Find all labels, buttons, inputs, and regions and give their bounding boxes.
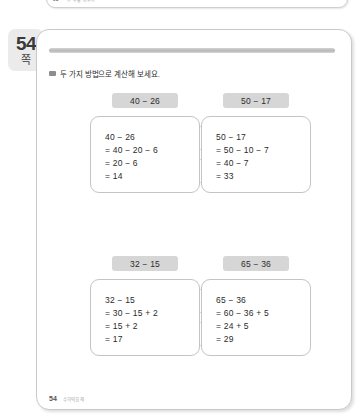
answer-line: = 40 − 7	[216, 157, 310, 170]
answer-line: = 24 + 5	[216, 320, 310, 333]
problem-chip-1: 40 − 26	[112, 93, 178, 108]
problem-group-3: 32 − 15 32 − 15 = 30 − 15 + 2 = 15 + 2 =…	[90, 256, 200, 356]
square-bullet-icon	[49, 71, 56, 76]
answer-box-2[interactable]: 50 − 17 = 50 − 10 − 7 = 40 − 7 = 33	[201, 116, 311, 193]
answer-line: = 15 + 2	[105, 320, 199, 333]
answer-box-1[interactable]: 40 − 26 = 40 − 20 − 6 = 20 − 6 = 14	[90, 116, 200, 193]
problem-chip-4: 65 − 36	[223, 256, 289, 271]
previous-page-caption: 두 수를 바꾸어	[67, 0, 96, 3]
problem-chip-3: 32 − 15	[112, 256, 178, 271]
answer-line: = 29	[216, 333, 310, 346]
answer-line: = 40 − 20 − 6	[105, 144, 199, 157]
page-number-unit: 쪽	[21, 55, 31, 66]
previous-page-number: 53	[53, 0, 59, 2]
problem-chip-2: 50 − 17	[223, 93, 289, 108]
answer-box-4[interactable]: 65 − 36 = 60 − 36 + 5 = 24 + 5 = 29	[201, 279, 311, 356]
footer-page-number: 54	[49, 395, 57, 402]
problem-group-2: 50 − 17 50 − 17 = 50 − 10 − 7 = 40 − 7 =…	[201, 93, 311, 193]
problem-group-4: 65 − 36 65 − 36 = 60 − 36 + 5 = 24 + 5 =…	[201, 256, 311, 356]
answer-box-3[interactable]: 32 − 15 = 30 − 15 + 2 = 15 + 2 = 17	[90, 279, 200, 356]
previous-page-card-peek[interactable]: 53 두 수를 바꾸어	[46, 0, 348, 8]
instruction-text: 두 가지 방법으로 계산해 보세요.	[60, 68, 160, 79]
answer-line: 50 − 17	[216, 131, 310, 144]
answer-line: = 30 − 15 + 2	[105, 307, 199, 320]
header-divider-bar	[49, 48, 335, 53]
answer-line: = 17	[105, 333, 199, 346]
answer-line: 40 − 26	[105, 131, 199, 144]
answer-line: = 14	[105, 170, 199, 183]
answer-line: = 60 − 36 + 5	[216, 307, 310, 320]
page-number-value: 54	[16, 34, 36, 53]
answer-line: = 33	[216, 170, 310, 183]
page-footer: 54 수학익힘책	[49, 395, 84, 402]
problem-group-1: 40 − 26 40 − 26 = 40 − 20 − 6 = 20 − 6 =…	[90, 93, 200, 193]
answer-line: = 20 − 6	[105, 157, 199, 170]
instruction-line: 두 가지 방법으로 계산해 보세요.	[49, 68, 160, 79]
worksheet-card: 두 가지 방법으로 계산해 보세요. 40 − 26 40 − 26 = 40 …	[36, 29, 352, 410]
footer-caption: 수학익힘책	[63, 396, 84, 402]
answer-line: = 50 − 10 − 7	[216, 144, 310, 157]
answer-line: 65 − 36	[216, 294, 310, 307]
answer-line: 32 − 15	[105, 294, 199, 307]
